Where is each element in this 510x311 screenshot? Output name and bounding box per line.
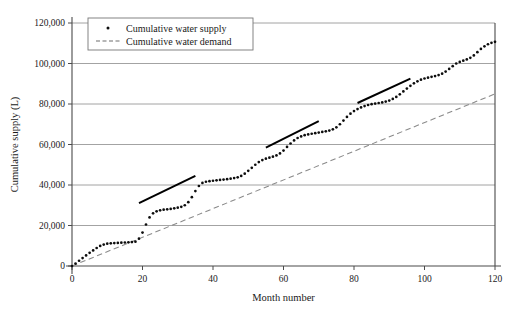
- supply-point: [391, 98, 394, 101]
- supply-point: [88, 251, 91, 254]
- supply-point: [194, 190, 197, 193]
- demand-series: [72, 94, 495, 266]
- supply-point: [388, 99, 391, 102]
- supply-point: [430, 76, 433, 79]
- supply-point: [131, 241, 134, 244]
- y-gridlines: [72, 23, 495, 226]
- y-tick-label-20000: 20,000: [39, 221, 65, 231]
- supply-point: [487, 43, 490, 46]
- supply-point: [303, 134, 306, 137]
- supply-point: [134, 240, 137, 243]
- supply-point: [314, 132, 317, 135]
- y-tick-label-100000: 100,000: [34, 59, 65, 69]
- supply-point: [441, 72, 444, 75]
- supply-point: [339, 123, 342, 126]
- supply-point: [494, 40, 497, 43]
- supply-point: [187, 201, 190, 204]
- y-tick-label-40000: 40,000: [39, 180, 65, 190]
- supply-point: [138, 237, 141, 240]
- supply-point: [191, 196, 194, 199]
- supply-point: [212, 179, 215, 182]
- supply-point: [85, 254, 88, 257]
- supply-point: [81, 257, 84, 260]
- trend-segments: [139, 79, 410, 204]
- supply-point: [95, 247, 98, 250]
- supply-point: [367, 104, 370, 107]
- supply-point: [240, 175, 243, 178]
- supply-point: [370, 103, 373, 106]
- supply-point: [145, 223, 148, 226]
- supply-point: [448, 68, 451, 71]
- supply-point: [180, 206, 183, 209]
- supply-point: [162, 208, 165, 211]
- x-tick-label-80: 80: [349, 274, 359, 284]
- trend-segment-1: [139, 176, 195, 203]
- supply-point: [222, 178, 225, 181]
- x-tick-label-100: 100: [417, 274, 432, 284]
- supply-series: [71, 40, 497, 267]
- supply-point: [324, 130, 327, 133]
- x-tick-label-40: 40: [208, 274, 218, 284]
- supply-point: [406, 87, 409, 90]
- supply-point: [250, 166, 253, 169]
- supply-point: [257, 161, 260, 164]
- y-axis-title: Cumulative supply (L): [9, 96, 21, 192]
- x-axis-ticks: 020406080100120: [70, 266, 503, 284]
- y-tick-label-80000: 80,000: [39, 99, 65, 109]
- supply-point: [265, 157, 268, 160]
- axes: [66, 17, 501, 274]
- supply-point: [279, 152, 282, 155]
- supply-point: [201, 182, 204, 185]
- supply-point: [78, 259, 81, 262]
- supply-point: [148, 216, 151, 219]
- supply-point: [282, 149, 285, 152]
- supply-point: [395, 96, 398, 99]
- supply-point: [152, 212, 155, 215]
- supply-point: [413, 82, 416, 85]
- supply-point: [74, 262, 77, 265]
- supply-point: [349, 112, 352, 115]
- supply-point: [416, 80, 419, 83]
- chart-legend: Cumulative water supplyCumulative water …: [88, 18, 253, 50]
- supply-point: [455, 62, 458, 65]
- supply-point: [71, 265, 74, 268]
- supply-point: [268, 156, 271, 159]
- supply-point: [310, 132, 313, 135]
- supply-point: [293, 139, 296, 142]
- supply-point: [434, 75, 437, 78]
- y-tick-label-60000: 60,000: [39, 140, 65, 150]
- supply-point: [233, 177, 236, 180]
- x-tick-label-0: 0: [70, 274, 75, 284]
- supply-point: [183, 204, 186, 207]
- supply-point: [173, 207, 176, 210]
- supply-point: [215, 179, 218, 182]
- supply-point: [462, 59, 465, 62]
- supply-point: [275, 154, 278, 157]
- supply-point: [409, 84, 412, 87]
- supply-point: [363, 105, 366, 108]
- supply-point: [124, 241, 127, 244]
- y-tick-label-0: 0: [60, 261, 65, 271]
- supply-point: [480, 48, 483, 51]
- supply-point: [423, 77, 426, 80]
- legend-label-demand: Cumulative water demand: [126, 36, 232, 47]
- supply-point: [381, 101, 384, 104]
- cumulative-water-chart: 020,00040,00060,00080,000100,000120,0000…: [0, 0, 510, 311]
- supply-point: [208, 180, 211, 183]
- supply-point: [296, 137, 299, 140]
- supply-point: [346, 116, 349, 119]
- supply-point: [458, 61, 461, 64]
- supply-point: [176, 206, 179, 209]
- supply-point: [219, 179, 222, 182]
- supply-point: [109, 242, 112, 245]
- supply-point: [261, 159, 264, 162]
- supply-point: [321, 131, 324, 134]
- supply-point: [335, 126, 338, 129]
- supply-point: [92, 249, 95, 252]
- supply-point: [465, 58, 468, 61]
- supply-point: [377, 102, 380, 105]
- supply-point: [169, 208, 172, 211]
- supply-point: [398, 93, 401, 96]
- supply-point: [272, 155, 275, 158]
- supply-point: [127, 241, 130, 244]
